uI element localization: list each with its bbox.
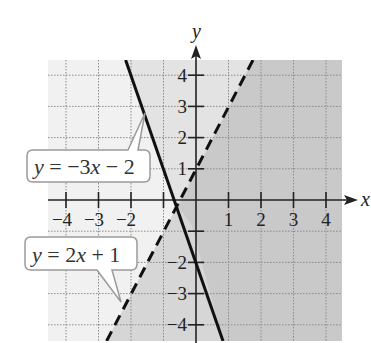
x-tick-label: −4 (52, 209, 73, 230)
y-tick-label: −3 (167, 283, 187, 304)
x-tick-label: −3 (84, 209, 104, 230)
y-axis-label: y (190, 20, 201, 43)
y-tick-label: −2 (167, 252, 187, 273)
x-tick-label: 1 (224, 209, 234, 230)
y-tick-label: 3 (178, 96, 188, 117)
x-axis-label: x (360, 188, 370, 210)
y-tick-label: 2 (178, 127, 188, 148)
inequality-graph: −4 −3 −2 1 2 3 4 4 3 2 1 −2 −3 −4 y x y … (0, 0, 371, 343)
y-tick-label: 1 (178, 158, 188, 179)
x-tick-label: 3 (289, 209, 299, 230)
y-tick-label: −4 (167, 314, 188, 335)
y-tick-label: 4 (178, 65, 188, 86)
x-tick-label: −2 (116, 209, 136, 230)
callout-solid-line-label: y = −3x − 2 (32, 154, 135, 179)
x-tick-label: 2 (256, 209, 266, 230)
callout-dashed-line-label: y = 2x + 1 (30, 242, 120, 267)
x-tick-label: 4 (321, 209, 331, 230)
